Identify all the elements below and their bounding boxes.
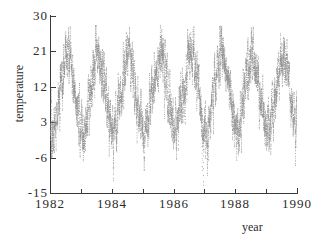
x-tick-label-1982: 1982	[27, 197, 73, 210]
x-axis-line	[50, 193, 298, 194]
x-tick-label-1988: 1988	[212, 197, 258, 210]
x-tick-label-1984: 1984	[89, 197, 135, 210]
y-tick--15	[51, 193, 56, 194]
y-tick-label-30: 30	[2, 9, 48, 22]
y-axis-title: temperature	[12, 34, 27, 154]
x-tick-label-1990: 1990	[274, 197, 318, 210]
x-axis-title: year	[242, 220, 263, 235]
temperature-series-plot	[50, 16, 297, 193]
plot-area	[50, 16, 297, 193]
x-tick-1990	[297, 188, 298, 193]
x-tick-label-1986: 1986	[151, 197, 197, 210]
chart-screenshot: -15-63122130 19821984198619881990 temper…	[0, 0, 318, 242]
